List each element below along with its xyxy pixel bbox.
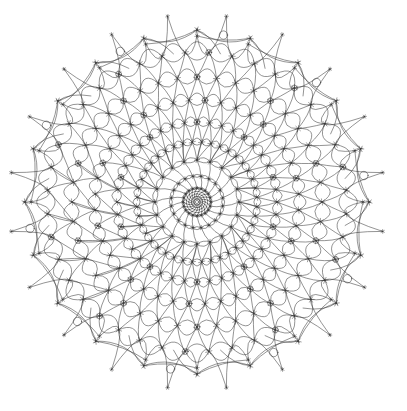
tessellation-edge: [185, 352, 209, 363]
tessellation-edge: [139, 176, 145, 182]
tessellation-edge: [140, 313, 158, 326]
mandala-drawing: [9, 14, 384, 389]
tessellation-edge: [185, 344, 209, 352]
tessellation-edge: [308, 297, 314, 303]
tessellation-edge: [217, 325, 232, 347]
tessellation-edge: [236, 108, 250, 117]
tessellation-edge: [150, 266, 161, 274]
tessellation-edge: [140, 289, 144, 313]
tessellation-edge: [226, 16, 248, 59]
tessellation-edge: [236, 83, 254, 93]
tessellation-edge: [248, 339, 283, 369]
tessellation-edge: [221, 278, 222, 301]
tessellation-edge: [297, 259, 309, 276]
tessellation-edge: [282, 241, 291, 255]
tessellation-edge: [74, 222, 103, 241]
tessellation-edge: [200, 194, 202, 195]
tessellation-edge: [274, 255, 284, 268]
tessellation-edge: [158, 83, 173, 103]
tessellation-edge: [187, 207, 189, 210]
tessellation-edge: [199, 204, 201, 206]
tessellation-edge: [58, 143, 85, 145]
tessellation-edge: [140, 145, 158, 156]
tessellation-edge: [161, 271, 173, 278]
tessellation-edge: [275, 268, 299, 275]
tessellation-edge: [189, 282, 197, 304]
tessellation-edge: [223, 189, 237, 198]
tessellation-edge: [172, 103, 173, 126]
tessellation-edge: [248, 34, 283, 64]
tessellation-edge: [158, 273, 161, 296]
tessellation-edge: [250, 38, 265, 68]
tessellation-edge: [47, 182, 73, 190]
tessellation-edge: [315, 202, 322, 222]
tessellation-edge: [190, 207, 192, 209]
tessellation-edge: [78, 240, 103, 241]
tessellation-edge: [273, 177, 296, 178]
tessellation-edge: [217, 72, 236, 83]
tessellation-edge: [215, 220, 231, 226]
tessellation-edge: [250, 341, 298, 365]
tessellation-edge: [268, 238, 291, 241]
tessellation-edge: [177, 52, 185, 78]
tessellation-edge: [208, 184, 215, 194]
tessellation-edge: [220, 126, 222, 147]
tessellation-node-circle: [360, 171, 368, 179]
tessellation-edge: [296, 163, 316, 178]
tessellation-edge: [114, 199, 120, 205]
tessellation-edge: [202, 205, 204, 207]
tessellation-edge: [201, 215, 208, 225]
tessellation-edge: [250, 289, 253, 313]
tessellation-edge: [140, 63, 159, 83]
tessellation-edge: [197, 160, 201, 176]
tessellation-edge: [270, 303, 275, 330]
tessellation-edge: [137, 202, 155, 207]
tessellation-node-circle: [312, 78, 320, 86]
mandala-figure: Hyperbolic Tessellation Mandala Concentr…: [0, 0, 407, 411]
tessellation-edge: [192, 207, 194, 209]
tessellation-edge: [270, 74, 275, 101]
tessellation-edge: [284, 129, 298, 149]
tessellation-edge: [162, 56, 177, 78]
tessellation-edge: [321, 104, 365, 125]
tessellation-edge: [72, 202, 95, 210]
tessellation-edge: [124, 280, 131, 304]
tessellation-edge: [202, 191, 205, 192]
tessellation-edge: [296, 210, 305, 226]
tessellation-edge: [270, 303, 294, 316]
tessellation-edge: [189, 197, 190, 199]
tessellation-edge: [158, 293, 173, 301]
tessellation-edge: [100, 88, 124, 101]
tessellation-edge: [132, 155, 151, 163]
tessellation-edge: [261, 238, 269, 249]
tessellation-edge: [239, 197, 257, 202]
tessellation-edge: [205, 100, 221, 107]
tessellation-edge: [275, 315, 294, 330]
tessellation-edge: [158, 108, 161, 131]
tessellation-edge: [172, 126, 174, 147]
tessellation-edge: [194, 197, 195, 200]
tessellation-edge: [69, 123, 96, 128]
tessellation-edge: [58, 303, 100, 336]
tessellation-edge: [263, 280, 270, 304]
mandala-svg: [0, 0, 407, 411]
tessellation-edge: [139, 188, 157, 189]
tessellation-edge: [197, 244, 202, 262]
tessellation-edge: [308, 145, 335, 146]
tessellation-edge: [189, 100, 197, 122]
tessellation-edge: [363, 286, 367, 290]
tessellation-edge: [166, 252, 174, 257]
tessellation-edge: [316, 145, 336, 164]
tessellation-edge: [322, 202, 347, 214]
tessellation-edge: [126, 155, 134, 166]
tessellation-edge: [209, 162, 211, 179]
tessellation-edge: [124, 302, 141, 314]
tessellation-edge: [109, 268, 120, 290]
tessellation-edge: [140, 49, 162, 63]
tessellation-edge: [299, 182, 321, 194]
tessellation-edge: [205, 179, 209, 191]
tessellation-edge: [64, 315, 105, 336]
tessellation-edge: [129, 336, 144, 366]
tessellation-edge: [268, 163, 291, 166]
tessellation-edge: [208, 210, 220, 214]
